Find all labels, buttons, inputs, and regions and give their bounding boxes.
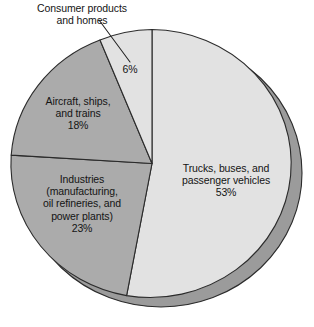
pie-chart: Consumer products and homes 6% Aircraft,…	[0, 0, 314, 327]
slice-percent-consumer: 6%	[108, 63, 152, 75]
slice-label-aircraft-text: Aircraft, ships, and trains	[46, 95, 111, 119]
slice-label-aircraft: Aircraft, ships, and trains18%	[12, 95, 144, 132]
slice-label-trucks: Trucks, buses, and passenger vehicles53%	[158, 162, 294, 199]
slice-label-industries-text: Industries (manufacturing, oil refinerie…	[43, 173, 121, 222]
slice-percent-aircraft: 18%	[68, 119, 89, 131]
slice-label-trucks-text: Trucks, buses, and passenger vehicles	[182, 162, 270, 186]
slice-percent-industries: 23%	[72, 222, 93, 234]
slice-label-consumer: Consumer products and homes	[6, 2, 158, 26]
slice-percent-trucks: 53%	[216, 186, 237, 198]
slice-label-industries: Industries (manufacturing, oil refinerie…	[10, 173, 154, 234]
